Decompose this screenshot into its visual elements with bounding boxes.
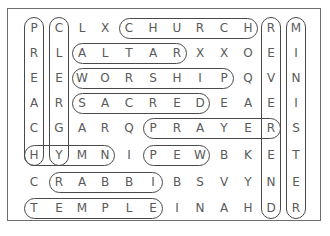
grid-letter: V [214, 172, 234, 192]
word-search-grid: PCLXCHURCHRMRLALTARXXOEIEEWORSHIPQVNARSA… [0, 0, 330, 236]
grid-letter: R [95, 118, 115, 138]
grid-letter: H [24, 145, 44, 165]
grid-letter: T [286, 145, 306, 165]
grid-letter: E [286, 172, 306, 192]
grid-letter: E [214, 93, 234, 113]
grid-letter: W [190, 145, 210, 165]
grid-letter: E [167, 145, 187, 165]
found-word-preach [24, 17, 44, 166]
grid-letter: B [167, 172, 187, 192]
grid-letter: A [72, 172, 92, 192]
grid-letter: Q [238, 68, 258, 88]
grid-letter: I [143, 172, 163, 192]
grid-letter: M [286, 18, 306, 38]
grid-letter: L [72, 18, 92, 38]
grid-letter: G [49, 118, 69, 138]
grid-letter: R [261, 118, 281, 138]
grid-letter: R [261, 18, 281, 38]
grid-letter: E [261, 43, 281, 63]
grid-letter: B [95, 172, 115, 192]
grid-letter: A [214, 198, 234, 218]
grid-letter: R [143, 93, 163, 113]
grid-letter: I [119, 145, 139, 165]
grid-letter: R [24, 43, 44, 63]
grid-letter: S [72, 93, 92, 113]
grid-letter: R [49, 172, 69, 192]
grid-letter: X [214, 43, 234, 63]
grid-letter: T [119, 43, 139, 63]
grid-letter: T [24, 198, 44, 218]
grid-letter: A [143, 43, 163, 63]
grid-letter: D [190, 93, 210, 113]
grid-letter: H [238, 18, 258, 38]
grid-letter: U [167, 18, 187, 38]
grid-letter: P [143, 145, 163, 165]
grid-letter: C [24, 118, 44, 138]
grid-letter: R [167, 43, 187, 63]
grid-letter: E [261, 145, 281, 165]
grid-letter: X [190, 43, 210, 63]
grid-letter: E [143, 198, 163, 218]
grid-letter: E [49, 198, 69, 218]
grid-letter: L [119, 198, 139, 218]
grid-letter: E [167, 93, 187, 113]
grid-letter: V [261, 68, 281, 88]
grid-letter: M [72, 145, 92, 165]
grid-letter: Y [214, 118, 234, 138]
grid-letter: C [119, 18, 139, 38]
grid-letter: L [95, 43, 115, 63]
grid-letter: S [286, 118, 306, 138]
grid-letter: A [238, 93, 258, 113]
grid-letter: R [286, 198, 306, 218]
grid-letter: E [49, 68, 69, 88]
grid-letter: I [286, 93, 306, 113]
grid-letter: A [24, 93, 44, 113]
grid-letter: O [238, 43, 258, 63]
grid-letter: C [214, 18, 234, 38]
grid-letter: E [24, 68, 44, 88]
grid-letter: R [167, 118, 187, 138]
grid-letter: H [143, 18, 163, 38]
grid-letter: Q [119, 118, 139, 138]
grid-letter: N [286, 68, 306, 88]
grid-letter: B [119, 172, 139, 192]
grid-letter: E [261, 93, 281, 113]
grid-letter: N [190, 198, 210, 218]
grid-letter: Y [49, 145, 69, 165]
grid-letter: S [190, 172, 210, 192]
grid-letter: L [49, 43, 69, 63]
grid-letter: R [49, 93, 69, 113]
grid-letter: S [143, 68, 163, 88]
grid-letter: P [214, 68, 234, 88]
grid-letter: A [72, 43, 92, 63]
grid-letter: H [238, 198, 258, 218]
grid-letter: P [143, 118, 163, 138]
grid-letter: P [95, 198, 115, 218]
grid-letter: O [95, 68, 115, 88]
grid-letter: N [261, 172, 281, 192]
grid-letter: C [49, 18, 69, 38]
grid-letter: C [119, 93, 139, 113]
grid-letter: W [72, 68, 92, 88]
grid-letter: A [95, 93, 115, 113]
grid-letter: A [190, 118, 210, 138]
grid-letter: X [95, 18, 115, 38]
grid-letter: A [72, 118, 92, 138]
grid-letter: I [167, 198, 187, 218]
grid-letter: I [190, 68, 210, 88]
grid-letter: R [190, 18, 210, 38]
grid-letter: R [119, 68, 139, 88]
grid-letter: C [24, 172, 44, 192]
grid-letter: N [95, 145, 115, 165]
grid-letter: P [24, 18, 44, 38]
grid-letter: D [261, 198, 281, 218]
found-word-clergy [49, 17, 69, 166]
grid-letter: M [72, 198, 92, 218]
grid-letter: Y [238, 172, 258, 192]
grid-letter: E [238, 118, 258, 138]
grid-letter: H [167, 68, 187, 88]
grid-letter: I [286, 43, 306, 63]
grid-letter: B [214, 145, 234, 165]
grid-letter: K [238, 145, 258, 165]
